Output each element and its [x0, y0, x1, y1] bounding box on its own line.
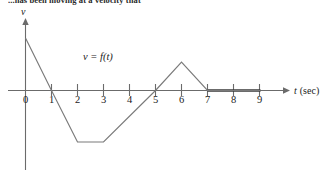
tick-label-1: 1: [49, 94, 54, 105]
tick-label-7: 7: [205, 94, 210, 105]
v-axis-arrowhead: [22, 18, 28, 25]
velocity-graph-figure: ...has been moving at a velocity that 0 …: [0, 0, 321, 176]
t-axis-label-unit: (sec): [300, 85, 319, 97]
t-axis-label: t(sec): [294, 85, 319, 97]
equation-annotation: v = f(t): [83, 51, 113, 63]
clipped-caption-text: ...has been moving at a velocity that: [8, 0, 238, 5]
tick-label-0: 0: [23, 94, 28, 105]
t-axis-arrowhead: [283, 87, 290, 93]
t-axis-label-var: t: [294, 85, 297, 96]
tick-label-9: 9: [257, 94, 262, 105]
tick-label-8: 8: [231, 94, 236, 105]
tick-label-4: 4: [127, 94, 133, 105]
tick-label-6: 6: [179, 94, 184, 105]
tick-label-2: 2: [75, 94, 80, 105]
graph-canvas: 0 1 2 3 4 5 6 7 8 9 v t(sec) v = f(t): [0, 0, 321, 176]
tick-label-3: 3: [101, 94, 106, 105]
v-axis-label: v: [21, 6, 26, 17]
tick-label-5: 5: [153, 94, 158, 105]
